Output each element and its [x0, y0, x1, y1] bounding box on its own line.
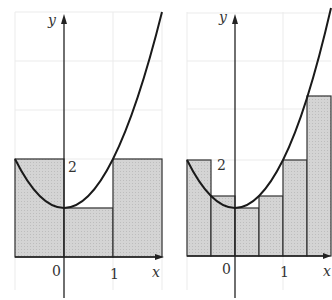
- rect: [307, 96, 331, 256]
- rect: [64, 208, 113, 257]
- figure: y x 0 1 2 y x 0 1 2: [0, 0, 332, 300]
- x-axis-label: x: [323, 263, 331, 279]
- x-tick-1: 1: [110, 266, 119, 282]
- riemann-rectangles: [15, 159, 162, 257]
- y-axis-label: y: [218, 9, 228, 25]
- rect: [283, 160, 307, 256]
- y-axis-label: y: [47, 12, 57, 28]
- y-tick-2: 2: [217, 157, 226, 173]
- riemann-rectangles: [187, 96, 331, 256]
- rect: [259, 196, 283, 256]
- x-tick-1: 1: [280, 264, 289, 280]
- y-axis-arrow-icon: [61, 14, 67, 24]
- rect: [113, 159, 162, 257]
- origin-label: 0: [222, 261, 231, 277]
- right-panel: y x 0 1 2: [187, 8, 331, 298]
- left-panel: y x 0 1 2: [15, 12, 164, 298]
- rect: [235, 208, 259, 256]
- origin-label: 0: [52, 263, 61, 279]
- x-axis-label: x: [152, 264, 160, 280]
- rect: [187, 160, 211, 256]
- y-tick-2: 2: [68, 159, 77, 175]
- y-axis-arrow-icon: [232, 14, 238, 24]
